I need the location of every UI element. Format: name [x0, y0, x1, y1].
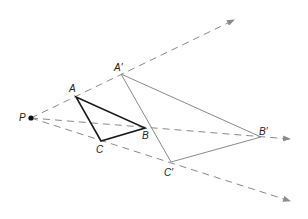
label-c-prime: C′ — [164, 167, 174, 178]
label-a: A — [68, 83, 76, 94]
center-point-p — [28, 115, 33, 120]
label-b: B — [142, 130, 149, 141]
label-c: C — [96, 144, 104, 155]
dilation-diagram: PABCA′B′C′ — [0, 0, 308, 219]
dilation-rays — [31, 20, 290, 201]
label-p: P — [19, 112, 26, 123]
original-triangle — [76, 97, 145, 141]
label-a-prime: A′ — [113, 62, 124, 73]
ray-pa — [31, 20, 234, 118]
ray-pc — [31, 118, 290, 201]
image-triangle — [121, 74, 261, 162]
label-b-prime: B′ — [259, 126, 269, 137]
ray-pb — [31, 118, 290, 139]
